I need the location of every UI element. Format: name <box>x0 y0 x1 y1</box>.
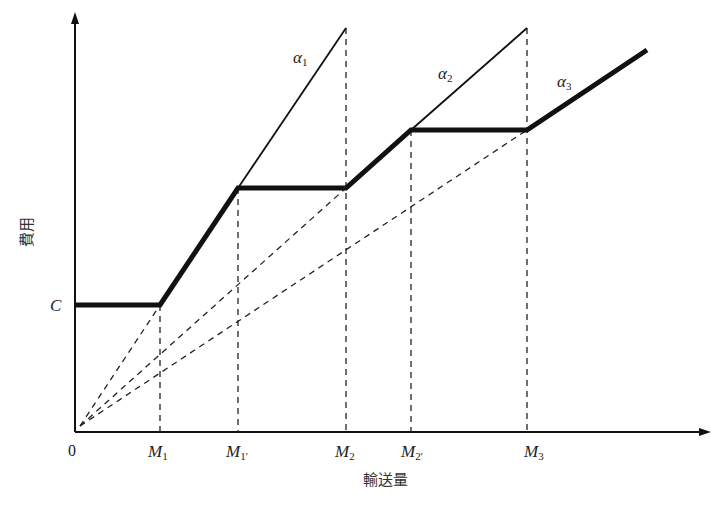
axes <box>71 12 711 436</box>
dashed-rays <box>80 130 527 426</box>
m1-label: M1 <box>147 442 168 462</box>
thin-slope-lines <box>238 28 527 188</box>
origin-label: 0 <box>68 442 76 459</box>
alpha2-line <box>411 28 527 130</box>
alpha3-label: α3 <box>557 72 572 92</box>
x-axis-label: 輸送量 <box>363 471 408 489</box>
alpha1-line <box>238 28 346 188</box>
c-label: C <box>50 296 62 315</box>
y-axis-label: 費用 <box>18 217 36 247</box>
alpha2-label: α2 <box>438 64 452 84</box>
ray-to-m3 <box>80 130 527 426</box>
m3-label: M3 <box>523 442 544 462</box>
m2-label: M2 <box>334 442 355 462</box>
m1p-label: M1' <box>225 442 248 462</box>
y-axis-arrow-icon <box>71 12 79 24</box>
alpha1-label: α1 <box>293 48 307 68</box>
m2p-label: M2' <box>400 442 423 462</box>
x-axis-arrow-icon <box>699 428 711 436</box>
dashed-verticals <box>160 28 527 432</box>
cost-transport-diagram: 0 C M1 M1' M2 M2' M3 α1 α2 α3 輸送量 費用 <box>0 0 722 505</box>
